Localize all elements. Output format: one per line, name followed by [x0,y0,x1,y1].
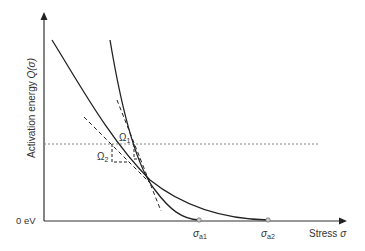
sigma-a1-label: σa1 [193,228,207,240]
sigma-a1-point [197,218,201,222]
tangent-dashed-1 [117,100,161,211]
y-axis-arrow-icon [41,12,48,20]
y-axis-label: Activation energy Q(σ) [26,58,37,158]
curve-steep [110,40,199,220]
tangent-dashed-2 [84,117,151,184]
x-axis-arrow-icon [339,218,347,225]
x-axis-label: Stress σ [309,228,347,239]
omega1-label: Ω1 [119,132,130,144]
sigma-a2-label: σa2 [261,228,275,240]
curve-shallow [52,40,268,220]
y-zero-label: 0 eV [16,215,36,226]
activation-energy-diagram: Ω1 Ω2 0 eV σa1 σa2 Stress σ Activation e… [0,0,365,251]
sigma-a2-point [266,218,270,222]
omega2-label: Ω2 [97,151,108,163]
